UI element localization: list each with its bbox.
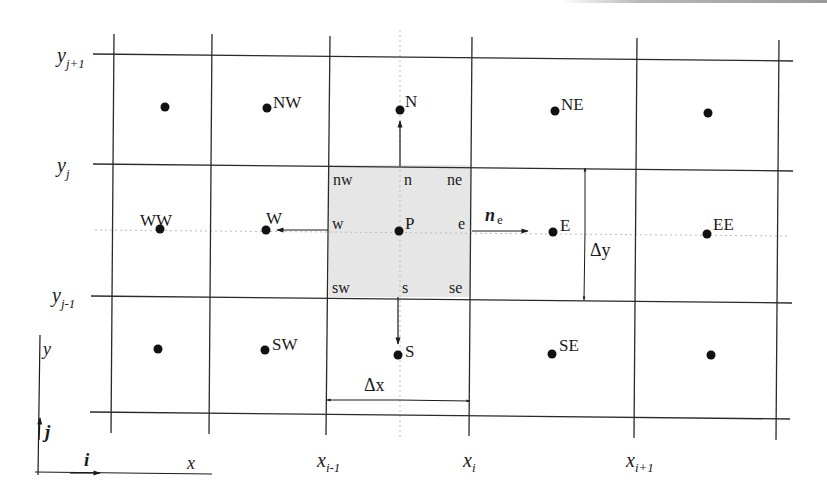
label-E: E — [560, 216, 570, 235]
face-s: s — [402, 279, 408, 296]
label-WW: WW — [140, 211, 173, 230]
node-EE — [703, 230, 712, 239]
unit-vector-label-i: i — [84, 449, 90, 470]
grid-col-1 — [209, 34, 212, 434]
label-NW: NW — [273, 93, 302, 112]
grid-row-bottom — [90, 412, 790, 419]
face-ne: ne — [447, 171, 462, 188]
label-N: N — [405, 92, 417, 111]
col-label-x-i-plus-1: xi+1 — [625, 449, 654, 475]
label-SE: SE — [559, 336, 579, 355]
node-NE — [551, 107, 560, 116]
grid-col-i-plus-1 — [634, 38, 637, 438]
node-N — [396, 106, 405, 115]
node-S — [394, 351, 403, 360]
dy-label: Δy — [590, 240, 611, 260]
dy-arrow-down — [584, 232, 585, 300]
local-axes — [35, 335, 212, 475]
label-SW: SW — [272, 335, 298, 354]
row-label-y-j: yj — [55, 154, 70, 181]
face-sw: sw — [332, 279, 350, 296]
node-SW — [261, 346, 270, 355]
grid-col-last — [776, 40, 779, 440]
x-axis — [35, 472, 212, 474]
label-P: P — [405, 214, 414, 233]
row-label-y-j-plus-1: yj+1 — [55, 44, 85, 71]
dx-label: Δx — [364, 375, 385, 395]
label-EE: EE — [713, 215, 734, 234]
dx-arrow-right — [398, 400, 470, 401]
face-n: n — [404, 171, 412, 188]
axis-label-x: x — [186, 453, 195, 473]
axis-label-y: y — [41, 339, 51, 359]
grid-row-j-minus-1 — [91, 296, 792, 303]
grid-col-0 — [111, 34, 114, 433]
normal-vector-label: ne — [485, 205, 503, 227]
node-E — [549, 228, 558, 237]
label-S: S — [405, 342, 414, 361]
grid-row-j-plus-1 — [93, 54, 793, 61]
unit-vector-label-j: j — [42, 421, 51, 442]
label-W: W — [266, 209, 283, 228]
node-NW — [263, 104, 272, 113]
face-w: w — [332, 215, 344, 232]
face-nw: nw — [333, 171, 353, 188]
row-label-y-j-minus-1: yj-1 — [50, 284, 75, 311]
face-se: se — [449, 279, 462, 296]
node-ne-far — [704, 109, 713, 118]
y-axis — [38, 335, 40, 475]
grid-diagram: NW N NE WW W P E EE SW S SE nw n ne w e … — [0, 0, 827, 503]
node-sw-far — [154, 345, 163, 354]
face-e: e — [458, 215, 465, 232]
node-se-far — [707, 351, 716, 360]
col-label-x-i: xi — [462, 449, 476, 475]
node-P — [395, 227, 404, 236]
node-SE — [548, 350, 557, 359]
node-nw-far — [161, 103, 170, 112]
col-label-x-i-minus-1: xi-1 — [316, 449, 340, 475]
label-NE: NE — [561, 95, 584, 114]
